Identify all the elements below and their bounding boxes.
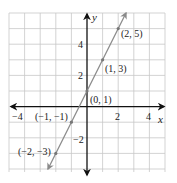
point-1	[101, 58, 104, 61]
tick-y-2: 2	[78, 70, 83, 81]
point-2	[117, 27, 120, 30]
tick-x-2: 2	[115, 111, 120, 122]
label-point-m2-m3: (−2, −3)	[18, 146, 51, 158]
tick-x-neg4: −4	[12, 111, 23, 122]
y-axis-label: y	[91, 11, 97, 23]
x-axis-label: x	[157, 113, 163, 125]
label-point-0-1: (0, 1)	[90, 94, 112, 106]
point-0	[85, 89, 88, 92]
tick-x-4: 4	[146, 111, 151, 122]
label-point-1-3: (1, 3)	[105, 63, 127, 75]
label-point-2-5: (2, 5)	[121, 28, 143, 40]
coordinate-plane: y x −4 2 4 4 2 −2 (2, 5) (1, 3) (0, 1) (…	[0, 0, 177, 183]
tick-y-neg2: −2	[73, 134, 84, 145]
point-m1	[70, 121, 73, 124]
tick-y-4: 4	[78, 39, 83, 50]
label-point-m1-m1: (−1, −1)	[35, 111, 68, 123]
point-m2	[54, 152, 57, 155]
